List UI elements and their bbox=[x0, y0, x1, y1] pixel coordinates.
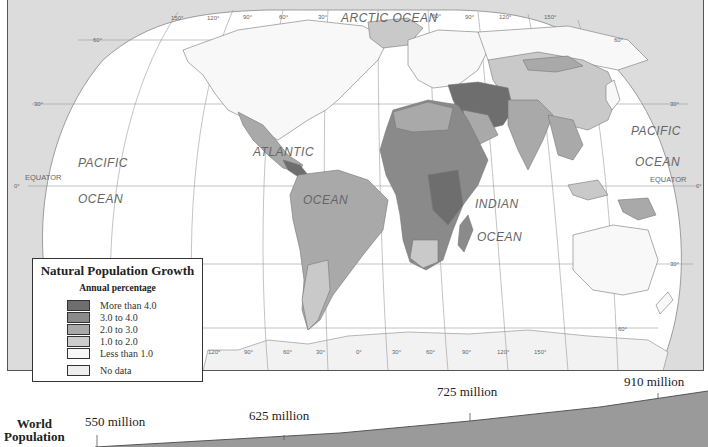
legend-swatch bbox=[67, 324, 90, 335]
legend-swatch bbox=[67, 348, 90, 359]
population-label-725: 725 million bbox=[437, 384, 497, 400]
pacific-ocean-west-label-1: PACIFIC bbox=[78, 156, 128, 170]
legend-label: No data bbox=[100, 365, 131, 376]
legend-item: 3.0 to 4.0 bbox=[67, 311, 138, 323]
pacific-ocean-east-label-2: OCEAN bbox=[635, 155, 680, 169]
title-line-2: Population bbox=[4, 430, 65, 443]
legend-swatch bbox=[67, 365, 90, 376]
lat-30n-west: 30° bbox=[34, 101, 44, 107]
lon-bottom-3: 30° bbox=[316, 349, 326, 355]
equator-label-west: EQUATOR bbox=[25, 173, 62, 182]
atlantic-ocean-label-1: ATLANTIC bbox=[252, 145, 314, 159]
legend-label: More than 4.0 bbox=[100, 300, 156, 311]
lon-top-6: 90° bbox=[465, 14, 475, 20]
lon-top-3: 60° bbox=[279, 14, 289, 20]
legend-label: Less than 1.0 bbox=[100, 348, 153, 359]
legend-swatch bbox=[67, 336, 90, 347]
legend-label: 3.0 to 4.0 bbox=[100, 312, 138, 323]
indian-ocean-label-1: INDIAN bbox=[475, 197, 519, 211]
legend-item: 2.0 to 3.0 bbox=[67, 323, 138, 335]
legend-item: Less than 1.0 bbox=[67, 347, 153, 359]
lon-top-7: 120° bbox=[499, 14, 512, 20]
map-legend: Natural Population Growth Annual percent… bbox=[32, 258, 203, 382]
lat-30n-east: 30° bbox=[670, 101, 680, 107]
lon-top-4: 30° bbox=[318, 14, 328, 20]
lon-bottom-1: 90° bbox=[244, 349, 254, 355]
lon-bottom-0: 120° bbox=[208, 349, 221, 355]
lon-bottom-9: 150° bbox=[534, 349, 547, 355]
legend-item: 1.0 to 2.0 bbox=[67, 335, 138, 347]
legend-item: No data bbox=[67, 364, 131, 376]
atlantic-ocean-label-2: OCEAN bbox=[303, 193, 348, 207]
lon-bottom-6: 60° bbox=[426, 349, 436, 355]
lon-top-1: 120° bbox=[207, 15, 220, 21]
world-population-timeline: World Population 550 million 625 million… bbox=[0, 383, 708, 447]
lon-bottom-7: 90° bbox=[462, 349, 472, 355]
lat-0-east: 0° bbox=[696, 183, 702, 189]
legend-item: More than 4.0 bbox=[67, 299, 156, 311]
lat-60s-east: 60° bbox=[618, 326, 628, 332]
lon-top-0: 150° bbox=[171, 15, 184, 21]
indian-ocean-label-2: OCEAN bbox=[477, 230, 522, 244]
legend-subtitle: Annual percentage bbox=[33, 283, 202, 293]
lon-top-8: 150° bbox=[544, 14, 557, 20]
pacific-ocean-east-label-1: PACIFIC bbox=[631, 124, 681, 138]
lon-bottom-5: 30° bbox=[392, 349, 402, 355]
equator-label-east: EQUATOR bbox=[650, 175, 687, 184]
lon-bottom-8: 120° bbox=[497, 349, 510, 355]
lon-bottom-2: 60° bbox=[283, 349, 293, 355]
pacific-ocean-west-label-2: OCEAN bbox=[78, 192, 123, 206]
lat-60n-west: 60° bbox=[93, 37, 103, 43]
lon-bottom-4: 0° bbox=[356, 349, 362, 355]
lon-top-2: 90° bbox=[243, 14, 253, 20]
legend-title: Natural Population Growth bbox=[33, 263, 202, 279]
legend-label: 2.0 to 3.0 bbox=[100, 324, 138, 335]
population-label-625: 625 million bbox=[249, 408, 309, 424]
population-label-550: 550 million bbox=[85, 414, 145, 430]
legend-swatch bbox=[67, 300, 90, 311]
lat-0-west: 0° bbox=[14, 183, 20, 189]
lat-60n-east: 60° bbox=[614, 37, 624, 43]
legend-swatch bbox=[67, 312, 90, 323]
legend-label: 1.0 to 2.0 bbox=[100, 336, 138, 347]
world-population-title: World Population bbox=[4, 417, 65, 443]
lat-30s-east: 30° bbox=[670, 261, 680, 267]
lon-top-5: 60° bbox=[432, 13, 442, 19]
arctic-ocean-label: ARCTIC OCEAN bbox=[340, 11, 438, 25]
population-label-910: 910 million bbox=[624, 374, 684, 390]
